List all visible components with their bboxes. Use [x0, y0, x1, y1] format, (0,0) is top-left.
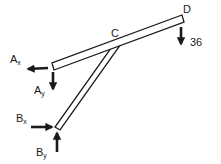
free-body-diagram: Ax Ay C D 36 Bx By: [0, 0, 221, 164]
point-c-label: C: [111, 27, 119, 39]
load-36-label: 36: [190, 36, 202, 48]
reaction-ax-label: Ax: [10, 53, 21, 66]
reaction-ax-arrow: [28, 68, 48, 69]
point-d-label: D: [183, 3, 191, 15]
beam-ad: [52, 15, 184, 70]
reaction-ay-label: Ay: [34, 84, 45, 98]
reaction-bx-label: Bx: [16, 112, 27, 125]
reaction-by-label: By: [36, 146, 47, 160]
